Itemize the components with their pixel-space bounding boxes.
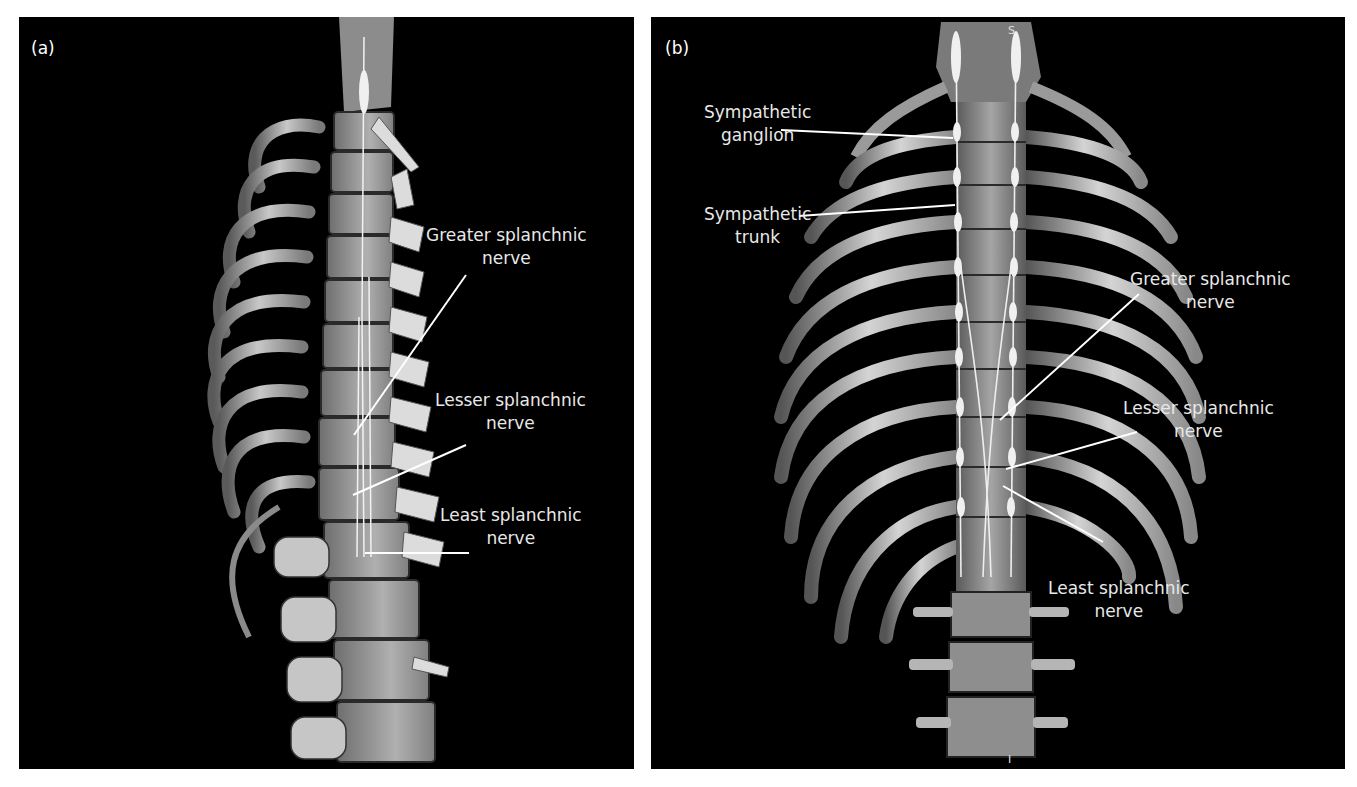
label-least-splanchnic-nerve-b: Least splanchnic nerve: [1048, 577, 1190, 623]
label-least-splanchnic-nerve-a: Least splanchnic nerve: [440, 504, 582, 550]
orientation-inferior: I: [1008, 754, 1011, 765]
posterior-rib-arcs: [214, 125, 319, 547]
panel-b-letter: (b): [665, 40, 689, 57]
floating-rib: [232, 507, 279, 637]
panel-a-lateral-view: (a) Greater splanchnic nerve Lesser spla…: [19, 17, 634, 769]
label-sympathetic-ganglion: Sympathetic ganglion: [704, 101, 811, 147]
ganglion: [359, 70, 369, 114]
orientation-superior: S: [1008, 25, 1015, 36]
label-sympathetic-trunk: Sympathetic trunk: [704, 203, 811, 249]
panel-a-letter: (a): [31, 40, 55, 57]
panel-b-anterior-view: (b) S I Sympathetic ganglion Sympathetic…: [651, 17, 1345, 769]
label-lesser-splanchnic-nerve-b: Lesser splanchnic nerve: [1123, 397, 1274, 443]
label-greater-splanchnic-nerve-b: Greater splanchnic nerve: [1130, 268, 1291, 314]
label-greater-splanchnic-nerve-a: Greater splanchnic nerve: [426, 224, 587, 270]
label-lesser-splanchnic-nerve-a: Lesser splanchnic nerve: [435, 389, 586, 435]
